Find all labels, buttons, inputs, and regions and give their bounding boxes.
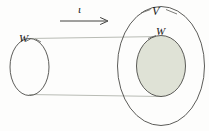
guide-line-top [29,37,162,39]
figure-container: W V W ι [0,0,209,131]
map-arrow-label: ι [78,4,81,15]
target-superset-label: V [152,5,159,17]
target-inner-oval [137,36,186,97]
source-oval [10,39,49,96]
map-arrow [60,18,108,25]
diagram-canvas [0,0,209,131]
target-subset-label: W [156,26,165,37]
guide-line-bottom [29,95,162,97]
source-set-label: W [19,33,28,44]
